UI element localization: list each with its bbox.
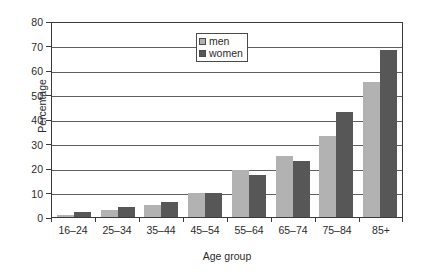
bar-men-35–44: [144, 205, 161, 217]
y-axis-tick-label: 10: [9, 188, 43, 200]
bar-group: [271, 23, 315, 217]
bar-women-65–74: [293, 161, 310, 217]
y-axis-tick-mark: [46, 169, 51, 170]
bar-group: [52, 23, 96, 217]
legend-item-men: men: [199, 35, 243, 47]
x-axis-tick-label: 16–24: [51, 224, 95, 236]
y-axis-tick-label: 60: [9, 65, 43, 77]
x-axis-tick-mark: [51, 218, 52, 222]
y-axis-tick-label: 50: [9, 90, 43, 102]
x-axis-tick-labels: 16–2425–3435–4445–5455–6465–7475–8485+: [51, 224, 403, 236]
bar-group: [358, 23, 402, 217]
y-axis-tick-label: 0: [9, 212, 43, 224]
y-axis-tick-label: 70: [9, 41, 43, 53]
bar-women-85+: [380, 50, 397, 217]
legend-label-men: men: [209, 35, 229, 47]
chart-legend: men women: [196, 33, 248, 62]
y-axis-tick-mark: [46, 95, 51, 96]
bar-men-85+: [363, 82, 380, 217]
legend-swatch-men-icon: [199, 38, 206, 45]
bar-women-75–84: [336, 112, 353, 217]
bar-men-16–24: [57, 215, 74, 217]
x-axis-tick-mark: [359, 218, 360, 222]
y-axis-tick-label: 30: [9, 139, 43, 151]
x-axis-tick-label: 75–84: [315, 224, 359, 236]
legend-item-women: women: [199, 47, 243, 59]
x-axis-tick-mark: [227, 218, 228, 222]
x-axis-tick-mark: [139, 218, 140, 222]
x-axis-tick-label: 65–74: [271, 224, 315, 236]
y-axis-tick-mark: [46, 120, 51, 121]
bar-men-45–54: [188, 193, 205, 218]
bar-group: [315, 23, 359, 217]
x-axis-tick-label: 45–54: [183, 224, 227, 236]
x-axis-tick-label: 35–44: [139, 224, 183, 236]
x-axis-tick-mark: [315, 218, 316, 222]
x-axis-tick-mark: [183, 218, 184, 222]
bar-chart-figure: Percentage 01020304050607080 16–2425–343…: [0, 0, 423, 275]
x-axis-tick-label: 25–34: [95, 224, 139, 236]
bar-men-55–64: [232, 170, 249, 217]
bar-men-65–74: [276, 156, 293, 217]
bar-men-75–84: [319, 136, 336, 217]
x-axis-tick-marks: [51, 218, 403, 223]
bar-women-45–54: [205, 193, 222, 218]
bar-women-16–24: [74, 212, 91, 217]
legend-label-women: women: [209, 47, 243, 59]
y-axis-tick-mark: [46, 22, 51, 23]
x-axis-title: Age group: [51, 250, 403, 262]
bar-group: [96, 23, 140, 217]
x-axis-tick-mark: [402, 218, 403, 222]
y-axis-tick-mark: [46, 46, 51, 47]
y-axis-tick-label: 80: [9, 16, 43, 28]
bar-women-35–44: [161, 202, 178, 217]
x-axis-tick-mark: [271, 218, 272, 222]
y-axis-tick-mark: [46, 71, 51, 72]
y-axis-tick-mark: [46, 193, 51, 194]
y-axis-tick-mark: [46, 144, 51, 145]
x-axis-tick-label: 85+: [359, 224, 403, 236]
x-axis-tick-label: 55–64: [227, 224, 271, 236]
x-axis-tick-mark: [95, 218, 96, 222]
y-axis-tick-label: 40: [9, 114, 43, 126]
bar-group: [140, 23, 184, 217]
y-axis-tick-label: 20: [9, 163, 43, 175]
bar-women-55–64: [249, 175, 266, 217]
bar-women-25–34: [118, 207, 135, 217]
bar-men-25–34: [101, 210, 118, 217]
legend-swatch-women-icon: [199, 50, 206, 57]
